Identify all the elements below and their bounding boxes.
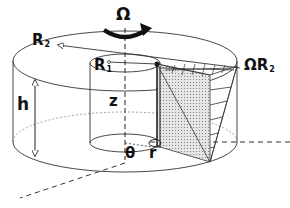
label-radial: r: [149, 146, 156, 161]
label-axial: z: [109, 94, 118, 109]
label-outer-radius-main: R: [32, 31, 44, 49]
label-wall-speed: ΩR2: [244, 58, 275, 74]
label-height: h: [17, 96, 29, 113]
couette-diagram: Ω R2 R1 h z θ r ΩR2: [0, 0, 290, 208]
label-inner-radius: R1: [94, 58, 112, 74]
r2-line: [58, 45, 240, 68]
label-outer-radius: R2: [32, 33, 50, 49]
label-wall-speed-main: ΩR: [244, 56, 268, 74]
label-inner-radius-main: R: [94, 56, 106, 74]
omega-arrow-icon: [104, 23, 152, 37]
r1-line: [108, 62, 157, 64]
label-angle: θ: [125, 146, 135, 161]
label-omega: Ω: [116, 6, 130, 23]
label-wall-speed-sub: 2: [269, 65, 275, 74]
label-inner-radius-sub: 1: [107, 65, 113, 74]
label-outer-radius-sub: 2: [45, 40, 51, 49]
